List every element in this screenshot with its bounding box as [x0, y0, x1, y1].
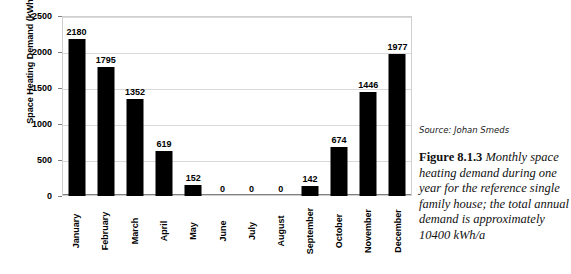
bar-slot: 1446	[354, 16, 383, 196]
x-tick-label: July	[237, 198, 266, 272]
bar-slot: 619	[150, 16, 179, 196]
bar[interactable]	[97, 67, 114, 196]
y-tick-label: 1000	[0, 119, 52, 129]
x-tick-label: May	[179, 198, 208, 272]
x-tick-label-text: November	[363, 209, 373, 253]
y-axis-ticks: 05001000150020002500	[0, 0, 58, 274]
bar-value-label: 1352	[125, 87, 145, 97]
figure-container: Space Heating Demand (kWh) 0500100015002…	[0, 0, 571, 274]
x-tick-label: February	[91, 198, 120, 272]
x-tick-label-text: February	[101, 212, 111, 251]
bar[interactable]	[389, 54, 406, 196]
x-tick-label: December	[383, 198, 412, 272]
bar-value-label: 674	[332, 135, 347, 145]
source-line: Source: Johan Smeds	[419, 125, 509, 135]
bar-slot: 0	[266, 16, 295, 196]
x-tick-label-text: August	[276, 216, 286, 247]
bars-layer: 21801795135261915200014267414461977	[62, 16, 412, 196]
y-tick-mark	[58, 196, 62, 197]
bar[interactable]	[360, 92, 377, 196]
bar-value-label: 152	[186, 173, 201, 183]
bar-slot: 2180	[62, 16, 91, 196]
x-tick-label-text: July	[247, 222, 257, 240]
y-tick-label: 1500	[0, 83, 52, 93]
x-tick-label-text: September	[305, 208, 315, 255]
x-tick-label: October	[325, 198, 354, 272]
y-tick-label: 0	[0, 191, 52, 201]
x-tick-label-text: October	[334, 214, 344, 249]
bar[interactable]	[331, 147, 348, 196]
y-tick-label: 500	[0, 155, 52, 165]
bar-slot: 1977	[383, 16, 412, 196]
x-tick-label-text: June	[217, 220, 227, 241]
x-tick-label: March	[120, 198, 149, 272]
x-tick-label: November	[354, 198, 383, 272]
bar-value-label: 2180	[67, 27, 87, 37]
bar-value-label: 0	[220, 184, 225, 194]
x-tick-label: April	[150, 198, 179, 272]
x-tick-label-text: May	[188, 222, 198, 240]
bar-value-label: 1795	[96, 55, 116, 65]
x-tick-label: September	[295, 198, 324, 272]
x-tick-label: June	[208, 198, 237, 272]
bar-value-label: 0	[249, 184, 254, 194]
bar-value-label: 619	[157, 139, 172, 149]
bar-slot: 142	[295, 16, 324, 196]
bar-slot: 1795	[91, 16, 120, 196]
bar-value-label: 142	[302, 174, 317, 184]
x-tick-label-text: January	[72, 214, 82, 249]
bar-value-label: 1977	[387, 42, 407, 52]
bar[interactable]	[301, 186, 318, 196]
bar-slot: 152	[179, 16, 208, 196]
caption-block: Source: Johan Smeds Figure 8.1.3 Monthly…	[419, 0, 571, 274]
y-tick-label: 2000	[0, 47, 52, 57]
bar[interactable]	[126, 99, 143, 196]
figure-number: Figure 8.1.3	[419, 150, 482, 164]
x-tick-label-text: March	[130, 218, 140, 245]
x-tick-label: January	[62, 198, 91, 272]
bar-value-label: 0	[278, 184, 283, 194]
x-tick-label-text: December	[392, 209, 402, 253]
bar[interactable]	[185, 185, 202, 196]
bar-slot: 674	[325, 16, 354, 196]
y-tick-label: 2500	[0, 11, 52, 21]
bar-chart: Space Heating Demand (kWh) 0500100015002…	[0, 0, 415, 274]
figure-caption: Figure 8.1.3 Monthly space heating deman…	[419, 150, 571, 243]
x-axis-labels: JanuaryFebruaryMarchAprilMayJuneJulyAugu…	[62, 198, 412, 274]
bar-slot: 0	[237, 16, 266, 196]
x-tick-label: August	[266, 198, 295, 272]
bar-value-label: 1446	[358, 80, 378, 90]
x-tick-label-text: April	[159, 221, 169, 242]
bar-slot: 0	[208, 16, 237, 196]
bar[interactable]	[68, 39, 85, 196]
bar[interactable]	[156, 151, 173, 196]
bar-slot: 1352	[120, 16, 149, 196]
